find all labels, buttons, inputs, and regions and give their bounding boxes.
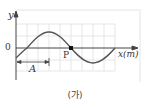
x-axis-label: x(m) <box>118 50 139 59</box>
dimension-a-label: A <box>29 64 36 74</box>
point-p-marker <box>69 46 73 50</box>
y-axis-arrow-icon <box>14 11 18 17</box>
point-p-label: P <box>63 51 69 60</box>
origin-label: 0 <box>5 43 11 52</box>
y-axis-label: y <box>8 10 14 20</box>
figure-caption: (가) <box>0 88 150 101</box>
